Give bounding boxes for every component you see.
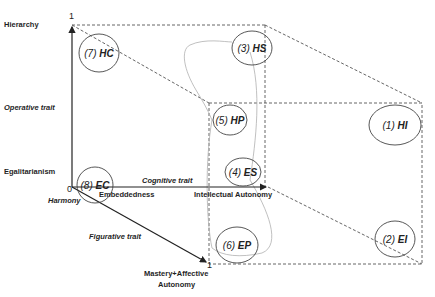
origin-tick: 0 xyxy=(67,184,72,194)
harmony-label: Harmony xyxy=(48,196,81,205)
node-ellipses xyxy=(77,31,421,263)
node-es: (4) ES xyxy=(229,167,257,178)
node-hc: (7) HC xyxy=(84,48,113,59)
node-ep: (6) EP xyxy=(223,240,251,251)
egalitarianism-label: Egalitarianism xyxy=(4,167,55,176)
trajectory-curve xyxy=(184,41,271,256)
embeddedness-label: Embeddedness xyxy=(99,190,154,199)
cube-edges xyxy=(72,25,422,264)
node-hi: (1) HI xyxy=(382,120,407,131)
intellectual-autonomy-label: Intellectual Autonomy xyxy=(194,190,272,199)
vertical-max-tick: 1 xyxy=(69,11,74,21)
autonomy-label: Autonomy xyxy=(158,280,195,289)
node-ei: (2) EI xyxy=(383,234,407,245)
hierarchy-label: Hierarchy xyxy=(4,20,39,29)
cognitive-trait-label: Cognitive trait xyxy=(142,176,192,185)
cube-diagram xyxy=(0,0,435,297)
node-hs: (3) HS xyxy=(238,43,267,54)
figurative-trait-label: Figurative trait xyxy=(89,232,141,241)
node-hp: (5) HP xyxy=(216,115,245,126)
node-ec: (8) EC xyxy=(81,180,110,191)
mastery-affective-label: Mastery+Affective xyxy=(144,269,208,278)
operative-trait-label: Operative trait xyxy=(4,103,55,112)
